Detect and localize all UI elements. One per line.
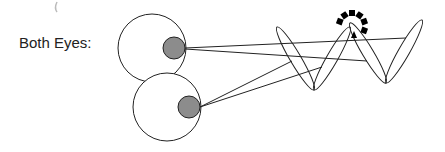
- pupil-circle: [178, 96, 200, 118]
- focus-dash: [340, 11, 348, 19]
- eyes-group: [118, 14, 201, 141]
- focus-dash: [360, 18, 368, 26]
- binocular-vision-diagram: [0, 0, 445, 152]
- lenses-group: [272, 17, 427, 93]
- scan-artifact-mark: [56, 2, 58, 12]
- lens-ellipse: [381, 17, 427, 85]
- focus-dash: [355, 11, 363, 19]
- focus-dash: [336, 18, 344, 26]
- bottom-eye: [133, 73, 201, 141]
- lens-ellipse: [345, 20, 390, 86]
- focus-dash: [349, 10, 355, 16]
- pupil-circle: [163, 37, 185, 59]
- sight-line: [200, 67, 322, 107]
- sight-line: [200, 61, 292, 107]
- top-eye: [118, 14, 186, 82]
- artifact-stroke: [56, 2, 58, 12]
- sight-line: [185, 38, 406, 48]
- lens-ellipse: [272, 24, 318, 93]
